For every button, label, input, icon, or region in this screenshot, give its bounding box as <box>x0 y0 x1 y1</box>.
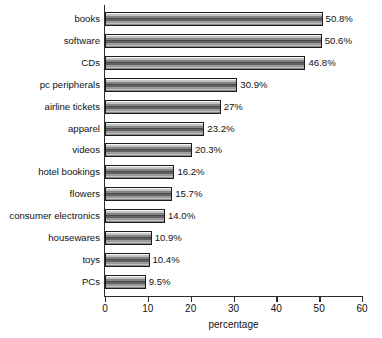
bar-value-label: 46.8% <box>308 56 335 70</box>
bar-row: toys10.4% <box>0 253 382 267</box>
category-label: videos <box>0 143 100 157</box>
bar-wrapper <box>105 12 323 26</box>
bar-row: PCs9.5% <box>0 275 382 289</box>
bar-value-label: 14.0% <box>168 209 195 223</box>
category-label: PCs <box>0 275 100 289</box>
bar-row: flowers15.7% <box>0 187 382 201</box>
bar-value-label: 20.3% <box>195 143 222 157</box>
x-axis-tick <box>319 297 320 302</box>
bar-value-label: 10.9% <box>155 231 182 245</box>
bar-value-label: 27% <box>224 100 243 114</box>
x-axis-tick-label: 30 <box>214 303 254 314</box>
category-label: flowers <box>0 187 100 201</box>
bar-wrapper <box>105 34 322 48</box>
category-label: apparel <box>0 122 100 136</box>
category-label: hotel bookings <box>0 165 100 179</box>
bar <box>105 78 237 92</box>
bar <box>105 100 221 114</box>
bar-wrapper <box>105 209 165 223</box>
bar-wrapper <box>105 78 237 92</box>
bar-value-label: 30.9% <box>240 78 267 92</box>
category-label: toys <box>0 253 100 267</box>
x-axis-tick <box>234 297 235 302</box>
category-label: books <box>0 12 100 26</box>
bar-row: videos20.3% <box>0 143 382 157</box>
bar-wrapper <box>105 275 146 289</box>
bar-value-label: 10.4% <box>153 253 180 267</box>
x-axis-tick <box>105 297 106 302</box>
bar-row: CDs46.8% <box>0 56 382 70</box>
bar-chart: books50.8%software50.6%CDs46.8%pc periph… <box>0 0 382 338</box>
bar-value-label: 15.7% <box>175 187 202 201</box>
bar-row: books50.8% <box>0 12 382 26</box>
bar <box>105 34 322 48</box>
x-axis-tick <box>191 297 192 302</box>
x-axis-tick <box>362 297 363 302</box>
bar-wrapper <box>105 253 150 267</box>
category-label: CDs <box>0 56 100 70</box>
x-axis-tick-label: 40 <box>256 303 296 314</box>
x-axis-tick <box>148 297 149 302</box>
bar-value-label: 50.8% <box>326 12 353 26</box>
bar-wrapper <box>105 231 152 245</box>
bar <box>105 231 152 245</box>
x-axis-title: percentage <box>105 319 362 330</box>
bar <box>105 143 192 157</box>
bar-wrapper <box>105 122 204 136</box>
category-label: airline tickets <box>0 100 100 114</box>
x-axis-tick-label: 0 <box>85 303 125 314</box>
bar <box>105 122 204 136</box>
category-label: housewares <box>0 231 100 245</box>
bar <box>105 253 150 267</box>
bar <box>105 187 172 201</box>
bar-row: hotel bookings16.2% <box>0 165 382 179</box>
bar <box>105 12 323 26</box>
bar-wrapper <box>105 165 174 179</box>
bar-wrapper <box>105 56 305 70</box>
bar-wrapper <box>105 100 221 114</box>
x-axis-tick-label: 50 <box>299 303 339 314</box>
x-axis-tick-label: 60 <box>342 303 382 314</box>
bar-row: airline tickets27% <box>0 100 382 114</box>
category-label: consumer electronics <box>0 209 100 223</box>
bar-value-label: 50.6% <box>325 34 352 48</box>
category-label: software <box>0 34 100 48</box>
bar-row: housewares10.9% <box>0 231 382 245</box>
category-label: pc peripherals <box>0 78 100 92</box>
x-axis-tick-label: 10 <box>128 303 168 314</box>
bar-row: consumer electronics14.0% <box>0 209 382 223</box>
bar <box>105 275 146 289</box>
bar <box>105 56 305 70</box>
bar-row: apparel23.2% <box>0 122 382 136</box>
bar-row: software50.6% <box>0 34 382 48</box>
bar <box>105 209 165 223</box>
x-axis-tick-label: 20 <box>171 303 211 314</box>
x-axis-tick <box>276 297 277 302</box>
bar-value-label: 23.2% <box>207 122 234 136</box>
bar-wrapper <box>105 143 192 157</box>
bar-row: pc peripherals30.9% <box>0 78 382 92</box>
bar-value-label: 9.5% <box>149 275 171 289</box>
bar <box>105 165 174 179</box>
bar-value-label: 16.2% <box>177 165 204 179</box>
bar-wrapper <box>105 187 172 201</box>
